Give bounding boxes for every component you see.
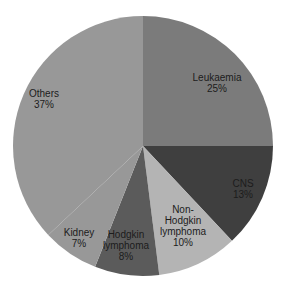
slice-label-text: Leukaemia <box>193 72 242 83</box>
slice-value-label: 7% <box>64 238 95 249</box>
slice-label-text: Hodgkin <box>103 229 149 240</box>
slice-label-text: Others <box>29 88 59 99</box>
slice-label-non-hodgkin-lymphoma: Non-Hodgkinlymphoma10% <box>160 204 206 248</box>
slice-label-cns: CNS13% <box>232 178 253 200</box>
slice-label-text: Kidney <box>64 227 95 238</box>
slice-value-label: 37% <box>29 99 59 110</box>
slice-label-text: Non- <box>160 204 206 215</box>
slice-label-text: lymphoma <box>103 240 149 251</box>
slice-value-label: 25% <box>193 83 242 94</box>
slice-value-label: 8% <box>103 251 149 262</box>
slice-label-text: CNS <box>232 178 253 189</box>
slice-label-text: lymphoma <box>160 226 206 237</box>
slice-value-label: 10% <box>160 237 206 248</box>
slice-value-label: 13% <box>232 189 253 200</box>
slice-label-hodgkin-lymphoma: Hodgkinlymphoma8% <box>103 229 149 262</box>
slice-label-others: Others37% <box>29 88 59 110</box>
slice-label-text: Hodgkin <box>160 215 206 226</box>
slice-label-leukaemia: Leukaemia25% <box>193 72 242 94</box>
slice-label-kidney: Kidney7% <box>64 227 95 249</box>
